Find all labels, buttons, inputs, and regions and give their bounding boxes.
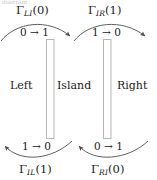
region-label-left: Left [10,80,32,91]
left-barrier [47,40,55,139]
gamma-subscript-ir: IR [96,9,105,18]
transition-label-bottom-left: 1 → 0 [22,141,51,152]
rate-label-gamma-il: ΓIL(1) [19,164,52,177]
gamma-symbol-li: Γ [16,3,24,17]
region-label-right: Right [117,80,147,91]
gamma-symbol-il: Γ [19,162,27,176]
rate-label-gamma-ir: ΓIR(1) [88,5,121,18]
rate-label-gamma-li: ΓLI(0) [16,5,49,18]
gamma-arg-ri: (0) [108,162,124,176]
gamma-symbol-ri: Γ [91,162,99,176]
gamma-symbol-ir: Γ [88,3,96,17]
right-barrier [104,40,112,139]
region-label-island: Island [57,80,91,91]
transition-label-top-left: 0 → 1 [20,27,49,38]
transition-label-bottom-right: 0 → 1 [94,141,123,152]
gamma-arg-li: (0) [32,3,48,17]
tunneling-rate-diagram: diagram ΓLI(0) ΓIR(1) ΓIL(1) ΓRI(0) 0 → … [0,0,157,180]
gamma-subscript-ri: RI [99,168,108,177]
gamma-arg-ir: (1) [105,3,121,17]
transition-label-top-right: 1 → 0 [92,27,121,38]
rate-label-gamma-ri: ΓRI(0) [91,164,124,177]
gamma-arg-il: (1) [35,162,51,176]
